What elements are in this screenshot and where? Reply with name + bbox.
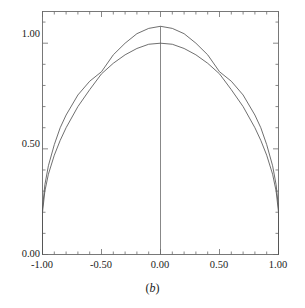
y-tick-label-3: 0.00 <box>4 248 40 259</box>
x-tick-label-4: 0.50 <box>199 259 239 270</box>
caption-suffix: ) <box>156 281 160 295</box>
y-tick-label-2: 0.50 <box>4 138 40 149</box>
x-tick-label-1: -1.00 <box>22 259 62 270</box>
y-tick-label-1: 1.00 <box>4 28 40 39</box>
x-tick-label-2: -0.50 <box>81 259 121 270</box>
x-tick-label-3: 0.00 <box>140 259 180 270</box>
figure-caption: (b) <box>0 281 305 296</box>
chart-figure: 1.00 0.50 0.00 -1.00 -0.50 0.00 0.50 1.0… <box>0 0 305 308</box>
x-tick-label-5: 1.00 <box>258 259 298 270</box>
